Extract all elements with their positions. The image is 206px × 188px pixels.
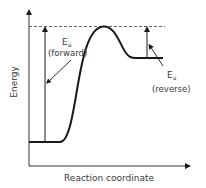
- energy-diagram: Ea (forward) Ea (reverse) Energy Reactio…: [0, 0, 206, 188]
- forward-pointer: [48, 60, 71, 82]
- forward-ea-symbol: Ea: [62, 37, 72, 48]
- reverse-ea-caption: (reverse): [152, 84, 191, 94]
- y-axis-label: Energy: [9, 66, 19, 98]
- reverse-ea-symbol: Ea: [167, 70, 177, 81]
- reverse-pointer: [150, 46, 163, 66]
- energy-curve: [29, 26, 163, 142]
- x-axis-label: Reaction coordinate: [64, 173, 154, 183]
- forward-ea-caption: (forward): [48, 48, 87, 58]
